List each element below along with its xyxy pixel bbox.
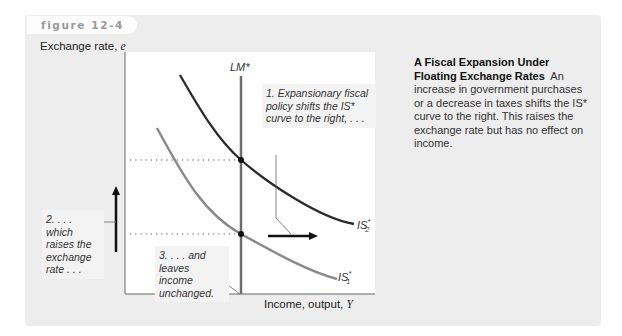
annotation-exchange-rate: 2. . . . which raises the exchange rate … bbox=[42, 210, 104, 279]
annotation-fiscal-shift: 1. Expansionary fiscal policy shifts the… bbox=[262, 84, 376, 128]
right-arrow-icon bbox=[309, 232, 318, 240]
is2-label: IS*2 bbox=[357, 218, 369, 233]
lm-label: LM* bbox=[230, 61, 250, 73]
up-arrow-icon bbox=[112, 186, 120, 195]
y-axis-label: Exchange rate, e bbox=[40, 40, 126, 52]
x-axis-label: Income, output, Y bbox=[264, 298, 353, 310]
figure-caption: A Fiscal Expansion Under Floating Exchan… bbox=[414, 56, 589, 151]
caption-title: A Fiscal Expansion Under Floating Exchan… bbox=[414, 56, 549, 82]
annotation-income-unchanged: 3. . . . and leaves income unchanged. bbox=[155, 246, 229, 302]
equilibrium-dot-low bbox=[238, 231, 244, 237]
equilibrium-dot-high bbox=[238, 157, 244, 163]
is1-label: IS*1 bbox=[338, 270, 350, 285]
